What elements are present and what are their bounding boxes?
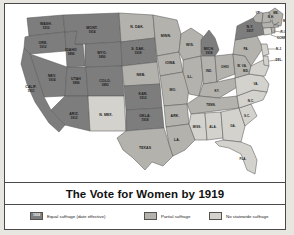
title-panel: The Vote for Women by 1919 [5, 183, 285, 205]
legend-swatch-date: 1918 [33, 214, 40, 217]
label-la: LA. [174, 138, 180, 142]
label-nd: N. DAK. [130, 25, 144, 29]
date-sd: 1918 [134, 51, 141, 55]
label-me: ME. [273, 11, 279, 15]
legend-item-no-suffrage: No statewide suffrage [209, 212, 268, 220]
legend-swatch-no-suffrage [209, 212, 222, 220]
label-de: DEL. [275, 58, 282, 62]
state-ri[interactable] [271, 27, 275, 33]
label-ma: MASS. [283, 19, 285, 23]
label-pa: PA. [243, 47, 248, 51]
date-id: 1896 [67, 52, 74, 56]
label-ne: NEB. [137, 73, 146, 77]
legend-item-equal-suffrage: 1918 Equal suffrage (date effective) [30, 212, 105, 220]
label-in: IND. [206, 69, 212, 73]
date-co: 1893 [101, 83, 108, 87]
legend-swatch-equal-suffrage: 1918 [30, 212, 43, 220]
label-va: VA. [253, 82, 258, 86]
label-ms: MISS. [193, 125, 202, 129]
legend-label-no-suffrage: No statewide suffrage [226, 214, 268, 219]
date-ny: 1917 [246, 29, 253, 33]
label-fl: FLA. [239, 157, 246, 161]
date-nv: 1914 [48, 78, 55, 82]
date-ca: 1911 [28, 89, 35, 93]
label-ky: KY. [215, 89, 220, 93]
label-tn: TENN. [206, 103, 216, 107]
date-wy: 1890 [98, 55, 105, 59]
label-ia: IOWA [165, 61, 175, 65]
date-ok: 1918 [141, 118, 148, 122]
label-tx: TEXAS [139, 146, 152, 150]
label-nj: N.J. [276, 47, 282, 51]
label-nh: N.H. [268, 15, 274, 19]
date-wa: 1910 [42, 26, 49, 30]
label-nm: N. MEX. [99, 113, 113, 117]
label-ct: CONN. [277, 36, 285, 40]
us-suffrage-map: WASH. 1910 ORE. 1912 IDAHO 1896 MONT. 19… [5, 4, 285, 183]
label-oh: OHIO [221, 65, 230, 69]
label-il: ILL. [187, 75, 193, 79]
label-mo: MO. [170, 88, 177, 92]
label-wv: W. VA. [237, 64, 247, 68]
label-nc: N.C. [248, 99, 254, 103]
legend-label-partial-suffrage: Partial suffrage [161, 214, 190, 219]
label-ri: R.I. [280, 30, 285, 34]
date-mt: 1914 [88, 30, 95, 34]
label-ar: ARK. [171, 114, 180, 118]
legend-item-partial-suffrage: Partial suffrage [144, 212, 190, 220]
label-vt: VT. [256, 11, 261, 15]
label-mn: MINN. [161, 34, 171, 38]
label-md: MD. [243, 69, 249, 73]
legend-panel: 1918 Equal suffrage (date effective) Par… [5, 205, 285, 229]
date-az: 1912 [70, 116, 77, 120]
legend-label-equal-suffrage: Equal suffrage (date effective) [47, 214, 105, 219]
label-wi: WIS. [186, 43, 194, 47]
label-al: ALA. [209, 125, 216, 129]
date-or: 1912 [39, 45, 46, 49]
date-ut: 1896 [72, 81, 79, 85]
state-de[interactable] [263, 56, 269, 66]
label-sc: S.C. [244, 114, 250, 118]
map-figure: WASH. 1910 ORE. 1912 IDAHO 1896 MONT. 19… [4, 3, 286, 230]
legend-swatch-partial-suffrage [144, 212, 157, 220]
map-panel: WASH. 1910 ORE. 1912 IDAHO 1896 MONT. 19… [5, 4, 285, 183]
label-ga: GA. [230, 124, 236, 128]
date-ks: 1912 [139, 96, 146, 100]
page-title: The Vote for Women by 1919 [66, 188, 225, 200]
date-mi: 1918 [205, 51, 212, 55]
state-ct[interactable] [263, 27, 272, 35]
